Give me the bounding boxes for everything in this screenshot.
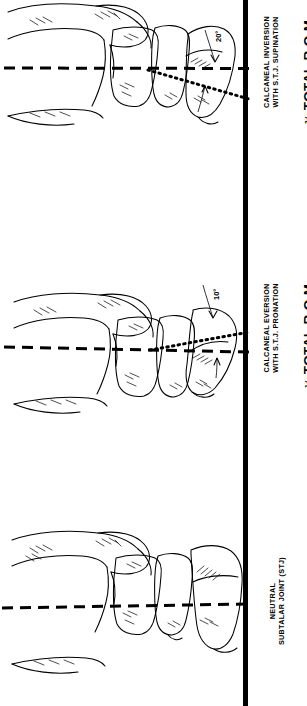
vertical-rule: [243, 0, 248, 706]
caption-neutral-subtalar-joint: NEUTRAL SUBTALAR JOINT (STJ): [268, 552, 287, 650]
leg-and-foot-outline-neutral: [12, 531, 151, 673]
panel-neutral-illustration: [0, 478, 250, 706]
leg-and-foot-outline-eversion: [14, 293, 153, 413]
panel-eversion-illustration: [0, 240, 250, 475]
leg-and-foot-outline-inversion: [8, 4, 151, 125]
caption-line-2: WITH S.T.J. SUPINATION: [271, 8, 280, 116]
caption-line-1: NEUTRAL: [268, 552, 277, 650]
rom-fraction: ⅓: [303, 378, 307, 388]
angle-label-10: 10°: [212, 289, 221, 300]
caption-calcaneal-inversion: CALCANEAL INVERSION WITH S.T.J. SUPINATI…: [262, 8, 281, 116]
calcaneus-bone-inverted: [186, 26, 235, 124]
neutral-axis-dashed-line: [4, 347, 249, 352]
rom-label-eversion: ⅓ TOTAL R.O.M.: [301, 279, 307, 388]
caption-line-1: CALCANEAL EVERSION: [262, 276, 271, 380]
caption-line-1: CALCANEAL INVERSION: [262, 8, 271, 116]
angle-label-20: 20°: [214, 31, 223, 42]
figure-canvas: 20°: [0, 0, 307, 706]
rom-fraction: ⅔: [303, 114, 307, 124]
calcaneus-bone-neutral: [191, 546, 242, 653]
panel-inversion-illustration: [0, 0, 250, 235]
rom-label-inversion: ⅔ TOTAL R.O.M.: [301, 15, 307, 124]
navicular-bone-neutral: [155, 554, 193, 640]
caption-line-2: WITH S.T.J. PRONATION: [271, 276, 280, 380]
neutral-axis-dashed-line: [4, 68, 249, 69]
caption-calcaneal-eversion: CALCANEAL EVERSION WITH S.T.J. PRONATION: [262, 276, 281, 380]
rom-text: TOTAL R.O.M.: [301, 279, 307, 374]
caption-line-2: SUBTALAR JOINT (STJ): [277, 552, 286, 650]
calcaneal-axis-dotted-line: [150, 332, 249, 350]
calcaneal-axis-dotted-line: [148, 70, 249, 99]
neutral-axis-dashed-line: [2, 604, 249, 608]
rom-text: TOTAL R.O.M.: [301, 15, 307, 110]
